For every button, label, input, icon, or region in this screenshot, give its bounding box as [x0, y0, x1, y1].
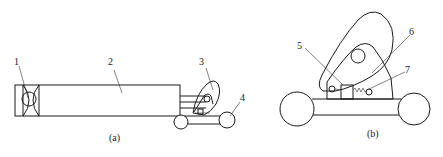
caption-b: (b)	[367, 129, 379, 139]
pivot-hole	[351, 49, 365, 63]
mechanism-diagram: 1 2 3 4 (a) 5 6 7 (b)	[0, 0, 443, 157]
label-2: 2	[108, 57, 113, 67]
wheel-right	[398, 93, 430, 125]
label-7: 7	[405, 65, 410, 75]
piston-rods	[180, 96, 206, 108]
label-5: 5	[297, 41, 302, 51]
part-5-spring-block	[341, 85, 353, 99]
part-1-end-roller	[15, 85, 39, 116]
label-3: 3	[199, 57, 204, 67]
leader-lines-a	[19, 66, 240, 116]
label-1: 1	[14, 57, 19, 67]
part-6-cam	[319, 12, 393, 91]
part-2-cylinder-body	[39, 85, 180, 116]
wheel-left	[280, 92, 314, 126]
part-3-cam-pawl	[193, 81, 220, 115]
label-6: 6	[409, 27, 414, 37]
label-4: 4	[240, 93, 245, 103]
subfigure-a	[15, 66, 240, 129]
caption-a: (a)	[109, 133, 120, 143]
